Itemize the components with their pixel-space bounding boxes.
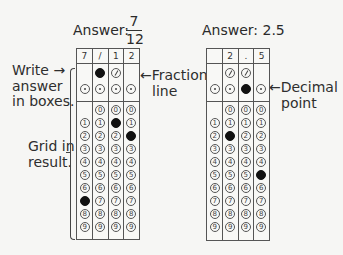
left-digit-bubble-col1-2[interactable]: 2 (80, 131, 90, 141)
right-digit-bubble-col3-7[interactable]: 7 (241, 196, 251, 206)
left-digit-bubble-col1-5[interactable]: 5 (80, 170, 90, 180)
right-digit-bubble-col4-6[interactable]: 6 (256, 183, 266, 193)
left-header-cell-1[interactable]: 7 (77, 49, 92, 63)
right-fraction-bubble-col3[interactable] (241, 68, 251, 78)
left-digit-bubble-col2-3[interactable]: 3 (95, 144, 105, 154)
right-digit-bubble-col2-0[interactable]: 0 (225, 105, 235, 115)
right-decimal-bubble-col4[interactable] (256, 84, 266, 94)
left-digit-bubble-col4-1[interactable]: 1 (126, 118, 136, 128)
right-fraction-bubble-col2[interactable] (225, 68, 235, 78)
right-digit-bubble-col4-0[interactable]: 0 (256, 105, 266, 115)
right-header-cell-4[interactable]: 5 (253, 49, 269, 63)
right-decimal-bubble-col1[interactable] (210, 84, 220, 94)
right-digit-bubble-col3-0[interactable]: 0 (241, 105, 251, 115)
right-digit-bubble-col4-5[interactable]: 5 (256, 170, 266, 180)
left-digit-bubble-col4-4[interactable]: 4 (126, 157, 136, 167)
left-digit-bubble-col4-8[interactable]: 8 (126, 209, 136, 219)
right-header-cell-1[interactable] (207, 49, 222, 63)
right-digit-bubble-col1-4[interactable]: 4 (210, 157, 220, 167)
left-digit-bubble-col1-6[interactable]: 6 (80, 183, 90, 193)
right-digit-bubble-col1-9[interactable]: 9 (210, 222, 220, 232)
fraction-numerator: 7 (126, 14, 142, 29)
right-digit-bubble-col3-1[interactable]: 1 (241, 118, 251, 128)
left-digit-bubble-col3-1[interactable]: 1 (111, 118, 121, 128)
right-digit-bubble-col1-3[interactable]: 3 (210, 144, 220, 154)
left-digit-bubble-col3-6[interactable]: 6 (111, 183, 121, 193)
left-digit-bubble-col1-9[interactable]: 9 (80, 222, 90, 232)
right-digit-bubble-col2-6[interactable]: 6 (225, 183, 235, 193)
right-digit-bubble-col3-4[interactable]: 4 (241, 157, 251, 167)
right-digit-bubble-col4-7[interactable]: 7 (256, 196, 266, 206)
left-digit-bubble-col3-0[interactable]: 0 (111, 105, 121, 115)
right-digit-bubble-col1-5[interactable]: 5 (210, 170, 220, 180)
right-digit-bubble-col2-3[interactable]: 3 (225, 144, 235, 154)
left-digit-bubble-col2-8[interactable]: 8 (95, 209, 105, 219)
left-digit-bubble-col1-3[interactable]: 3 (80, 144, 90, 154)
right-digit-bubble-col2-9[interactable]: 9 (225, 222, 235, 232)
left-digit-bubble-col1-7[interactable]: 7 (80, 196, 90, 206)
right-digit-bubble-col4-8[interactable]: 8 (256, 209, 266, 219)
left-digit-bubble-col4-5[interactable]: 5 (126, 170, 136, 180)
right-digit-bubble-col3-6[interactable]: 6 (241, 183, 251, 193)
right-header-cell-2[interactable]: 2 (222, 49, 238, 63)
left-fraction-bubble-col2[interactable] (95, 68, 105, 78)
left-digit-bubble-col3-4[interactable]: 4 (111, 157, 121, 167)
left-digit-bubble-col2-6[interactable]: 6 (95, 183, 105, 193)
left-digit-bubble-col2-9[interactable]: 9 (95, 222, 105, 232)
right-digit-bubble-col2-2[interactable]: 2 (225, 131, 235, 141)
left-digit-bubble-col3-9[interactable]: 9 (111, 222, 121, 232)
right-digit-bubble-col3-8[interactable]: 8 (241, 209, 251, 219)
left-header-cell-2[interactable]: / (92, 49, 108, 63)
right-digit-bubble-col1-7[interactable]: 7 (210, 196, 220, 206)
right-digit-bubble-col3-9[interactable]: 9 (241, 222, 251, 232)
left-digit-bubble-col4-3[interactable]: 3 (126, 144, 136, 154)
left-digit-bubble-col3-7[interactable]: 7 (111, 196, 121, 206)
right-digit-bubble-col4-1[interactable]: 1 (256, 118, 266, 128)
left-digit-bubble-col4-6[interactable]: 6 (126, 183, 136, 193)
left-digit-bubble-col1-4[interactable]: 4 (80, 157, 90, 167)
left-digit-bubble-col2-4[interactable]: 4 (95, 157, 105, 167)
left-digit-bubble-col2-2[interactable]: 2 (95, 131, 105, 141)
right-header-cell-3[interactable]: . (238, 49, 254, 63)
left-decimal-bubble-col3[interactable] (111, 84, 121, 94)
left-header-cell-3[interactable]: 1 (108, 49, 124, 63)
right-digit-bubble-col3-3[interactable]: 3 (241, 144, 251, 154)
right-digit-bubble-col4-9[interactable]: 9 (256, 222, 266, 232)
right-digit-bubble-col2-7[interactable]: 7 (225, 196, 235, 206)
left-decimal-bubble-col4[interactable] (126, 84, 136, 94)
left-header-cell-4[interactable]: 2 (123, 49, 139, 63)
left-digit-bubble-col4-7[interactable]: 7 (126, 196, 136, 206)
left-fraction-bubble-col3[interactable] (111, 68, 121, 78)
left-decimal-bubble-col2[interactable] (95, 84, 105, 94)
right-digit-bubble-col2-8[interactable]: 8 (225, 209, 235, 219)
right-digit-bubble-col3-5[interactable]: 5 (241, 170, 251, 180)
left-digit-bubble-col3-8[interactable]: 8 (111, 209, 121, 219)
right-digit-bubble-col3-2[interactable]: 2 (241, 131, 251, 141)
left-digit-bubble-col2-0[interactable]: 0 (95, 105, 105, 115)
left-digit-bubble-col1-1[interactable]: 1 (80, 118, 90, 128)
left-digit-bubble-col4-0[interactable]: 0 (126, 105, 136, 115)
right-digit-bubble-col4-4[interactable]: 4 (256, 157, 266, 167)
right-decimal-bubble-col3[interactable] (241, 84, 251, 94)
right-digit-bubble-col1-6[interactable]: 6 (210, 183, 220, 193)
left-digit-bubble-col1-8[interactable]: 8 (80, 209, 90, 219)
right-digit-bubble-col2-4[interactable]: 4 (225, 157, 235, 167)
right-digit-bubble-col4-2[interactable]: 2 (256, 131, 266, 141)
right-digit-bubble-col4-3[interactable]: 3 (256, 144, 266, 154)
left-answer-label: Answer: (73, 22, 129, 38)
left-digit-bubble-col4-9[interactable]: 9 (126, 222, 136, 232)
right-digit-bubble-col2-5[interactable]: 5 (225, 170, 235, 180)
left-digit-bubble-col4-2[interactable]: 2 (126, 131, 136, 141)
left-digit-bubble-col3-5[interactable]: 5 (111, 170, 121, 180)
right-digit-bubble-col1-2[interactable]: 2 (210, 131, 220, 141)
left-digit-bubble-col2-1[interactable]: 1 (95, 118, 105, 128)
left-digit-bubble-col2-5[interactable]: 5 (95, 170, 105, 180)
left-digit-bubble-col3-2[interactable]: 2 (111, 131, 121, 141)
right-decimal-bubble-col2[interactable] (225, 84, 235, 94)
left-digit-bubble-col3-3[interactable]: 3 (111, 144, 121, 154)
right-digit-bubble-col1-1[interactable]: 1 (210, 118, 220, 128)
left-decimal-bubble-col1[interactable] (80, 84, 90, 94)
right-digit-bubble-col2-1[interactable]: 1 (225, 118, 235, 128)
right-digit-bubble-col1-8[interactable]: 8 (210, 209, 220, 219)
left-digit-bubble-col2-7[interactable]: 7 (95, 196, 105, 206)
